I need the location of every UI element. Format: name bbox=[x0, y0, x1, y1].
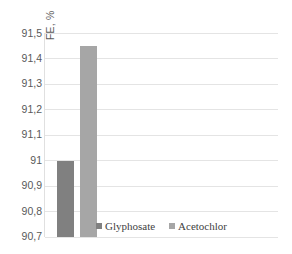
bar-chart: FE, % 91,5 91,4 91,3 91,2 91,1 91 90,9 9… bbox=[0, 0, 292, 254]
chart-legend: Glyphosate Acetochlor bbox=[96, 219, 227, 233]
y-tick-label: 91 bbox=[2, 155, 42, 166]
y-tick-label: 91,2 bbox=[2, 104, 42, 115]
legend-swatch-icon bbox=[169, 223, 175, 229]
gridline bbox=[45, 237, 278, 238]
gridline bbox=[45, 33, 278, 34]
y-tick-label: 91,1 bbox=[2, 129, 42, 140]
y-tick-label: 90,9 bbox=[2, 180, 42, 191]
y-tick-label: 90,7 bbox=[2, 231, 42, 242]
legend-swatch-icon bbox=[96, 223, 102, 229]
plot-area bbox=[45, 33, 278, 237]
y-tick-label: 91,4 bbox=[2, 53, 42, 64]
y-axis-tick-labels: 91,5 91,4 91,3 91,2 91,1 91 90,9 90,8 90… bbox=[0, 0, 42, 254]
legend-entry-glyphosate[interactable]: Glyphosate bbox=[96, 220, 155, 232]
legend-entry-acetochlor[interactable]: Acetochlor bbox=[169, 220, 227, 232]
y-tick-label: 91,3 bbox=[2, 78, 42, 89]
y-tick-label: 90,8 bbox=[2, 206, 42, 217]
bar-acetochlor[interactable] bbox=[80, 46, 97, 237]
legend-label: Acetochlor bbox=[178, 220, 227, 232]
y-tick-label: 91,5 bbox=[2, 28, 42, 39]
bar-glyphosate[interactable] bbox=[57, 161, 74, 238]
legend-label: Glyphosate bbox=[105, 220, 155, 232]
